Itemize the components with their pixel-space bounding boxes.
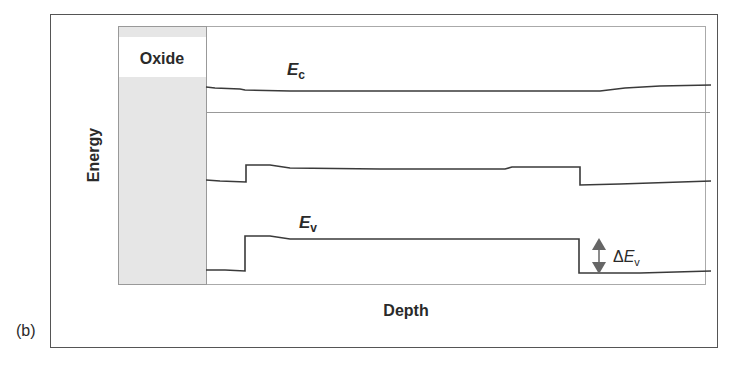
- oxide-label: Oxide: [140, 50, 185, 67]
- offset-arrow-icon: [592, 238, 606, 274]
- conduction-band-line: [206, 85, 711, 91]
- x-axis-label: Depth: [383, 302, 428, 319]
- y-axis-label: Energy: [85, 128, 102, 182]
- band-diagram: Oxide Ec Ev ΔEv Energy Depth (b): [0, 0, 731, 367]
- middle-band-line: [206, 165, 711, 185]
- valence-offset-label: ΔEv: [613, 248, 640, 268]
- valence-band-label: Ev: [299, 213, 317, 235]
- panel-label: (b): [16, 322, 36, 339]
- conduction-band-label: Ec: [287, 60, 305, 82]
